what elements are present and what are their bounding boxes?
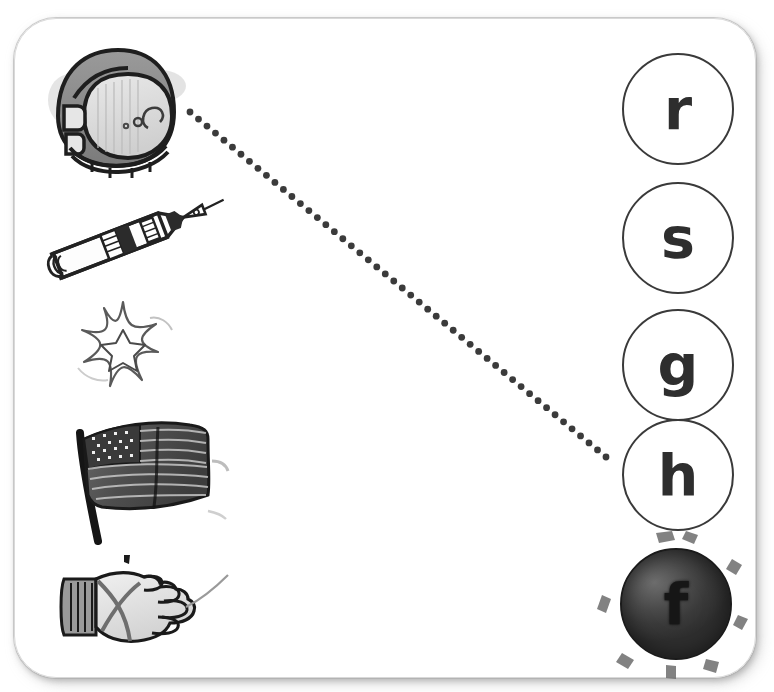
letter-circle-g[interactable]: g [622, 309, 734, 421]
letter-circle-s[interactable]: s [622, 182, 734, 294]
picture-flag[interactable] [62, 415, 230, 547]
picture-glove[interactable] [58, 555, 230, 657]
letter-label-s: s [661, 210, 695, 267]
letter-circle-f-selected[interactable]: f [620, 548, 732, 660]
letter-label-h: h [658, 447, 699, 504]
picture-star[interactable] [62, 296, 184, 398]
letter-label-f: f [664, 576, 689, 633]
picture-astronaut-helmet[interactable] [40, 42, 190, 184]
letter-label-r: r [664, 81, 692, 138]
picture-rocket[interactable] [42, 188, 234, 290]
letter-circle-r[interactable]: r [622, 53, 734, 165]
letter-label-g: g [658, 337, 699, 394]
worksheet-stage: r s g h f [0, 0, 774, 692]
letter-circle-h[interactable]: h [622, 419, 734, 531]
